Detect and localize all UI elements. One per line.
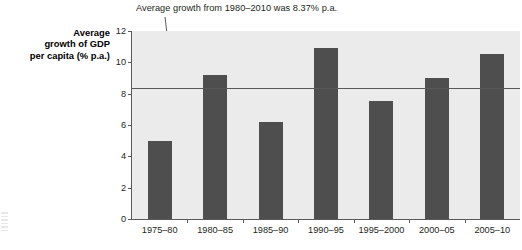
- y-axis-label: 6: [121, 120, 126, 130]
- y-axis-tick: [128, 62, 132, 63]
- y-axis-title: Average growth of GDP per capita (% p.a.…: [2, 27, 110, 61]
- x-axis-tick: [409, 219, 410, 223]
- bar: [148, 141, 172, 219]
- bar: [369, 101, 393, 219]
- chart-figure: Average growth from 1980–2010 was 8.37% …: [0, 0, 522, 250]
- x-axis-label: 2000–05: [419, 225, 455, 235]
- x-axis-tick: [243, 219, 244, 223]
- bars-layer: [132, 31, 520, 219]
- average-reference-line: [132, 88, 520, 89]
- y-axis-label: 4: [121, 151, 126, 161]
- x-axis-label: 1990–95: [308, 225, 344, 235]
- x-axis-tick: [465, 219, 466, 223]
- y-axis-label: 10: [116, 57, 126, 67]
- bar: [259, 122, 283, 219]
- bar: [203, 75, 227, 219]
- y-axis-title-line-3: per capita (% p.a.): [2, 50, 110, 61]
- y-axis-title-line-1: Average: [2, 27, 110, 38]
- y-axis-label: 12: [116, 26, 126, 36]
- x-axis-tick: [298, 219, 299, 223]
- page-edge-artifact: [1, 212, 8, 234]
- x-axis-tick: [354, 219, 355, 223]
- x-axis-label: 2005–10: [474, 225, 510, 235]
- y-axis-label: 8: [121, 89, 126, 99]
- average-line-annotation: Average growth from 1980–2010 was 8.37% …: [136, 3, 337, 14]
- y-axis-tick: [128, 156, 132, 157]
- y-axis-tick: [128, 31, 132, 32]
- y-axis-label: 2: [121, 183, 126, 193]
- y-axis-title-line-2: growth of GDP: [2, 38, 110, 49]
- bar: [314, 48, 338, 219]
- x-axis-label: 1995–2000: [358, 225, 404, 235]
- bar: [480, 54, 504, 219]
- y-axis-tick: [128, 94, 132, 95]
- x-axis-label: 1980–85: [197, 225, 233, 235]
- y-axis-label: 0: [121, 214, 126, 224]
- x-axis-tick: [187, 219, 188, 223]
- plot-area: 1975–801980–851985–901990–951995–2000200…: [131, 31, 520, 220]
- x-axis-label: 1985–90: [253, 225, 289, 235]
- y-axis-tick: [128, 188, 132, 189]
- y-axis-tick: [128, 125, 132, 126]
- x-axis-label: 1975–80: [142, 225, 178, 235]
- bar: [425, 78, 449, 219]
- y-axis-tick: [128, 219, 132, 220]
